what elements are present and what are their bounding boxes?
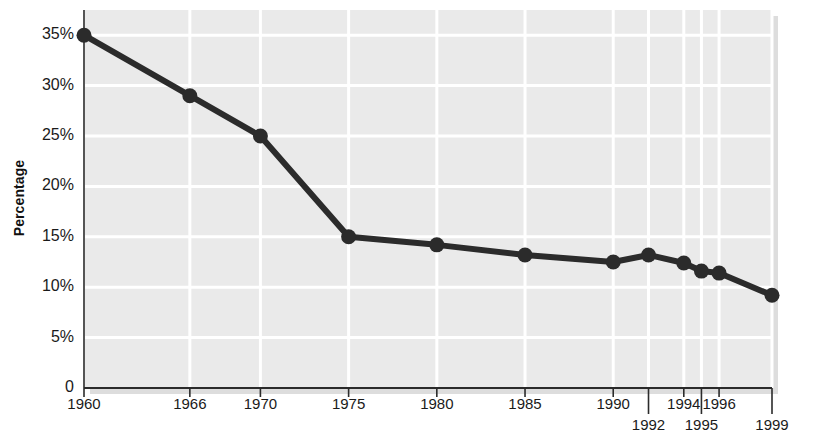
plot-area xyxy=(0,0,816,435)
data-point-marker[interactable] xyxy=(253,129,268,144)
data-point-marker[interactable] xyxy=(518,247,533,262)
data-point-marker[interactable] xyxy=(606,255,621,270)
data-point-marker[interactable] xyxy=(676,256,691,271)
data-point-marker[interactable] xyxy=(182,88,197,103)
data-point-marker[interactable] xyxy=(694,264,709,279)
chart-container: Percentage 05%10%15%20%25%30%35% 1960196… xyxy=(0,0,816,435)
data-point-marker[interactable] xyxy=(429,237,444,252)
plot-background xyxy=(84,10,772,388)
data-point-marker[interactable] xyxy=(712,266,727,281)
data-point-marker[interactable] xyxy=(641,247,656,262)
data-point-marker[interactable] xyxy=(765,288,780,303)
data-point-marker[interactable] xyxy=(77,28,92,43)
data-point-marker[interactable] xyxy=(341,229,356,244)
